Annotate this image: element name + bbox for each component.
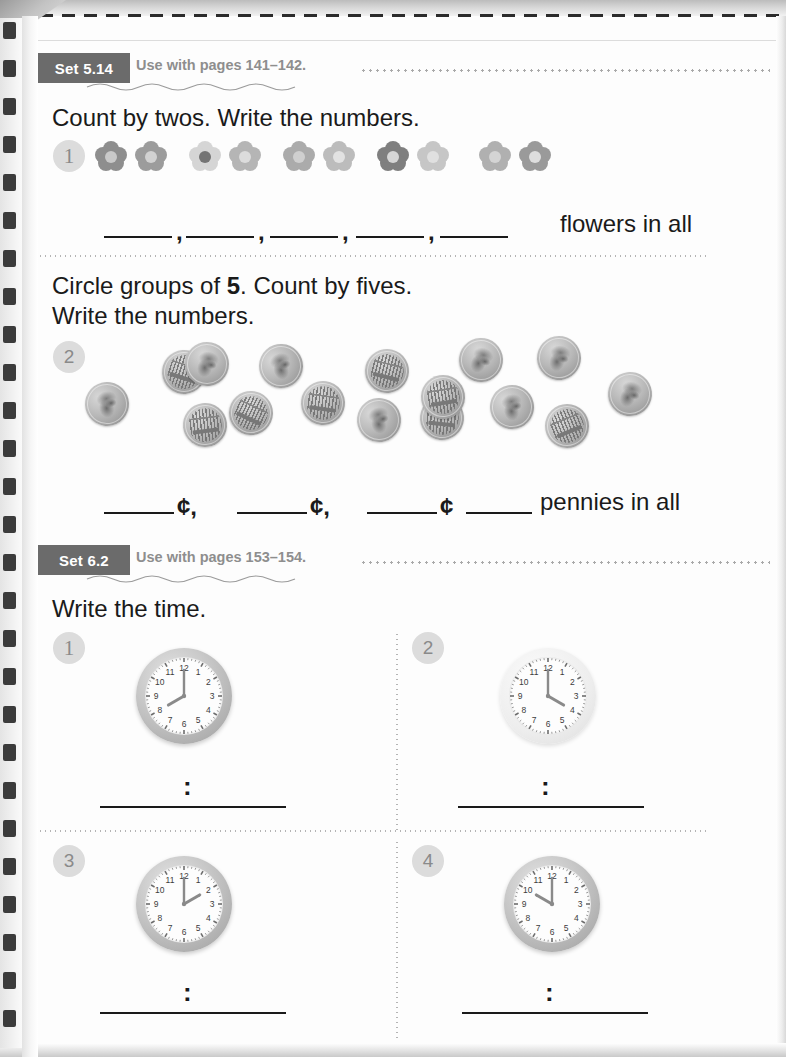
svg-text:5: 5 (196, 715, 201, 725)
svg-text:11: 11 (534, 875, 543, 885)
exercise-1-tail-text: flowers in all (560, 210, 692, 238)
answer-separator: , (176, 218, 183, 246)
clock-answer-line[interactable] (100, 1012, 286, 1014)
clock-face: 121234567891011 (145, 657, 223, 735)
flower-icon (480, 142, 510, 172)
penny-coin (486, 381, 538, 433)
time-colon: : (183, 982, 192, 1003)
answer-separator: , (258, 218, 265, 246)
clock-face: 121234567891011 (145, 865, 223, 943)
clock-answer-line[interactable] (458, 806, 644, 808)
penny-face (228, 390, 273, 435)
penny-face (459, 338, 503, 382)
worksheet-page: Set 5.14 Use with pages 141–142. Count b… (0, 0, 786, 1057)
clock-answer-line[interactable] (462, 1012, 648, 1014)
penny-face (259, 344, 303, 388)
svg-text:9: 9 (154, 691, 159, 701)
flower-icon (230, 142, 260, 172)
time-colon: : (545, 982, 554, 1003)
hour-hand (184, 895, 200, 904)
answer-blank-total[interactable] (466, 512, 532, 514)
svg-text:4: 4 (570, 705, 575, 715)
answer-blank[interactable] (440, 236, 508, 238)
svg-text:4: 4 (206, 705, 211, 715)
penny-coin (352, 393, 406, 447)
divider-after-exercise-1 (38, 255, 710, 257)
exercise-2-prompt-before: Circle groups of (52, 272, 227, 299)
svg-text:10: 10 (155, 677, 165, 687)
svg-text:6: 6 (550, 927, 555, 937)
clock-exercise-prompt: Write the time. (52, 595, 206, 623)
clock-divider-horizontal (38, 830, 710, 832)
svg-text:8: 8 (525, 913, 530, 923)
svg-text:6: 6 (182, 927, 187, 937)
flower-icon (190, 142, 220, 172)
penny-coin (253, 338, 309, 394)
svg-text:8: 8 (157, 705, 162, 715)
hour-hand (548, 696, 564, 705)
clock-answer-line[interactable] (100, 806, 286, 808)
answer-separator: , (428, 218, 435, 246)
svg-text:9: 9 (154, 899, 159, 909)
svg-text:6: 6 (182, 719, 187, 729)
penny-coin (222, 384, 280, 442)
cent-symbol: ¢, (310, 493, 330, 521)
set-use-pages-2: Use with pages 153–154. (136, 549, 306, 565)
answer-blank-cents[interactable] (104, 512, 174, 514)
hour-hand (168, 696, 184, 705)
answer-blank[interactable] (270, 236, 338, 238)
analog-clock: 121234567891011 (136, 648, 232, 744)
svg-text:5: 5 (564, 923, 569, 933)
svg-text:10: 10 (155, 885, 165, 895)
svg-text:1: 1 (560, 667, 565, 677)
clock-hub (550, 902, 554, 906)
penny-coin (538, 397, 595, 454)
exercise-2-prompt-line-2: Write the numbers. (52, 302, 254, 330)
clock-item-number-badge: 2 (412, 632, 444, 664)
svg-text:3: 3 (210, 899, 215, 909)
penny-coin (603, 367, 657, 421)
svg-text:1: 1 (196, 875, 201, 885)
svg-text:9: 9 (518, 691, 523, 701)
answer-blank[interactable] (104, 236, 172, 238)
svg-text:3: 3 (574, 691, 579, 701)
svg-text:5: 5 (560, 715, 565, 725)
answer-blank-cents[interactable] (237, 512, 307, 514)
set-tag-label: Set 5.14 (38, 53, 130, 83)
svg-text:2: 2 (206, 677, 211, 687)
flower-icon (378, 142, 408, 172)
answer-blank-cents[interactable] (367, 512, 437, 514)
set-use-pages: Use with pages 141–142. (136, 57, 306, 73)
answer-blank[interactable] (186, 236, 254, 238)
clock-item-number-badge: 1 (53, 632, 85, 664)
flower-icon (520, 142, 550, 172)
exercise-2-prompt-after: . Count by fives. (240, 272, 412, 299)
penny-coin (534, 333, 585, 384)
svg-text:11: 11 (530, 667, 539, 677)
exercise-1-prompt: Count by twos. Write the numbers. (52, 104, 420, 132)
answer-blank[interactable] (356, 236, 424, 238)
analog-clock: 121234567891011 (136, 856, 232, 952)
analog-clock: 121234567891011 (504, 856, 600, 952)
clock-item-number-badge: 3 (53, 845, 85, 877)
exercise-1-number-badge: 1 (53, 140, 85, 172)
flower-icon (136, 142, 166, 172)
svg-text:7: 7 (168, 715, 173, 725)
svg-text:8: 8 (157, 913, 162, 923)
time-colon: : (541, 776, 550, 797)
exercise-2-number-badge: 2 (53, 341, 85, 373)
clock-divider-vertical-top (396, 632, 398, 830)
clock-hub (182, 694, 186, 698)
worksheet-content: Set 5.14 Use with pages 141–142. Count b… (0, 0, 786, 1057)
svg-text:3: 3 (578, 899, 583, 909)
clock-hub (182, 902, 186, 906)
analog-clock: 121234567891011 (500, 648, 596, 744)
svg-text:7: 7 (168, 923, 173, 933)
svg-text:4: 4 (206, 913, 211, 923)
clock-divider-vertical-bottom (396, 840, 398, 1040)
clock-face: 121234567891011 (513, 865, 591, 943)
clock-face: 121234567891011 (509, 657, 587, 735)
penny-coin (453, 332, 509, 388)
set-squiggle-underline-2 (86, 572, 298, 586)
exercise-2-prompt-line-1: Circle groups of 5. Count by fives. (52, 272, 412, 300)
